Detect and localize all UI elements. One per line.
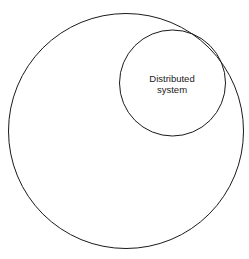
venn-diagram: Distributed system <box>0 0 249 259</box>
label-line-1: Distributed <box>149 73 194 84</box>
outer-circle <box>9 14 244 249</box>
label-line-2: system <box>157 84 187 95</box>
